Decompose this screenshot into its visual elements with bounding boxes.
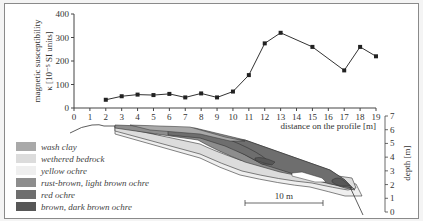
depth-axis-label: depth [m]	[402, 145, 412, 180]
scale-bar: 10 m	[245, 191, 323, 206]
x-tick-label: 6	[167, 112, 172, 122]
data-point	[342, 68, 346, 72]
x-tick-label: 9	[215, 112, 220, 122]
data-point	[120, 94, 124, 98]
legend-item: red ochre	[16, 190, 75, 200]
legend-label: rust-brown, light brown ochre	[41, 178, 149, 188]
x-tick-label: 3	[119, 112, 124, 122]
magnetic-susceptibility-figure: 0100200300400 01234567891011121314151617…	[0, 0, 423, 221]
depth-tick-label: 0	[390, 207, 395, 217]
x-tick-label: 7	[183, 112, 188, 122]
data-point	[167, 92, 171, 96]
legend-label: red ochre	[41, 190, 75, 200]
depth-tick-label: 5	[390, 138, 395, 148]
depth-axis-ticks: 01234567	[385, 111, 395, 217]
x-tick-label: 5	[151, 112, 156, 122]
legend: wash claywethered bedrockyellow ochrerus…	[16, 142, 149, 212]
susceptibility-points	[104, 31, 378, 102]
data-point	[215, 95, 219, 99]
legend-item: yellow ochre	[16, 166, 87, 176]
legend-item: rust-brown, light brown ochre	[16, 178, 149, 188]
x-tick-label: 1	[88, 112, 93, 122]
y-tick-label: 100	[56, 80, 70, 90]
legend-swatch	[16, 178, 36, 187]
legend-label: wethered bedrock	[41, 154, 106, 164]
y-tick-label: 400	[56, 9, 70, 19]
depth-tick-label: 3	[390, 166, 395, 176]
x-tick-label: 8	[199, 112, 204, 122]
legend-swatch	[16, 142, 36, 151]
x-axis-ticks: 012345678910111213141516171819	[72, 108, 381, 122]
data-point	[151, 93, 155, 97]
data-point	[199, 91, 203, 95]
data-point	[183, 95, 187, 99]
data-point	[358, 45, 362, 49]
depth-tick-label: 7	[390, 111, 395, 121]
data-point	[247, 73, 251, 77]
legend-item: wash clay	[16, 142, 77, 152]
data-point	[279, 31, 283, 35]
x-axis-label: distance on the profile [m]	[281, 121, 376, 131]
y-axis-ticks: 0100200300400	[56, 9, 75, 113]
y-axis-label-line2: κ [10⁻⁵ SI units]	[44, 31, 54, 91]
legend-swatch	[16, 154, 36, 163]
x-tick-label: 11	[245, 112, 254, 122]
data-point	[136, 93, 140, 97]
scale-bar-label: 10 m	[275, 191, 293, 201]
legend-swatch	[16, 190, 36, 199]
y-axis-label-line1: magnetic susceptibility	[32, 19, 42, 103]
x-tick-label: 12	[260, 112, 269, 122]
data-point	[231, 90, 235, 94]
x-tick-label: 2	[104, 112, 109, 122]
data-point	[310, 45, 314, 49]
x-tick-label: 4	[135, 112, 140, 122]
data-point	[374, 54, 378, 58]
legend-swatch	[16, 166, 36, 175]
depth-tick-label: 4	[390, 152, 395, 162]
legend-label: yellow ochre	[40, 166, 87, 176]
legend-swatch	[16, 202, 36, 211]
legend-item: wethered bedrock	[16, 154, 106, 164]
y-tick-label: 0	[65, 103, 70, 113]
legend-label: brown, dark brown ochre	[41, 202, 132, 212]
data-point	[263, 41, 267, 45]
x-tick-label: 10	[228, 112, 238, 122]
legend-item: brown, dark brown ochre	[16, 202, 132, 212]
ground-surface	[70, 125, 115, 133]
susceptibility-line	[106, 33, 376, 100]
depth-tick-label: 1	[390, 193, 395, 203]
x-tick-label: 0	[72, 112, 77, 122]
legend-label: wash clay	[41, 142, 77, 152]
data-point	[104, 98, 108, 102]
depth-tick-label: 2	[390, 180, 395, 190]
depth-tick-label: 6	[390, 125, 395, 135]
y-tick-label: 200	[56, 56, 70, 66]
y-tick-label: 300	[56, 33, 70, 43]
